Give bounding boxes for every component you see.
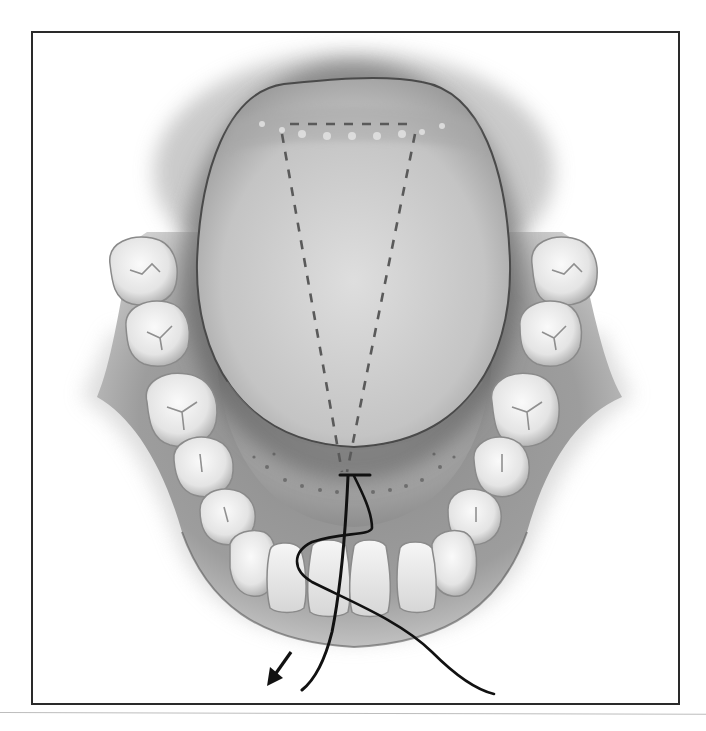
page	[0, 0, 706, 731]
incisor-4	[397, 542, 436, 613]
tooth-right-6	[432, 531, 477, 597]
tooth-right-3	[492, 373, 560, 446]
direction-arrow-icon	[267, 652, 291, 686]
page-separator	[0, 712, 706, 715]
tooth-left-2	[126, 301, 189, 366]
tooth-right-2	[520, 301, 582, 366]
jaw-illustration	[33, 33, 678, 703]
tooth-left-1	[110, 237, 177, 305]
tooth-left-4	[174, 437, 233, 497]
figure-frame	[31, 31, 680, 705]
incisor-3	[350, 540, 390, 617]
tooth-right-1	[532, 237, 597, 305]
tooth-left-3	[146, 373, 217, 446]
